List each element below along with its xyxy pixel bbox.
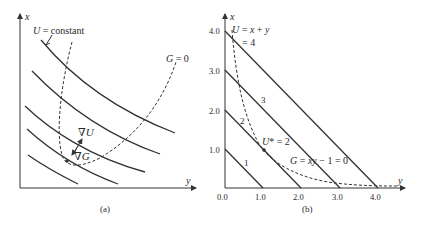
optimum-label: U* = 2	[262, 136, 290, 147]
u-level-curves	[25, 40, 175, 184]
u-line-1	[225, 149, 263, 188]
grad-u-label: ∇U	[78, 126, 95, 138]
axis-y-label-a: y	[185, 175, 191, 186]
g-equation-label: G = xy − 1 = 0	[290, 155, 348, 166]
u-equation-value: = 4	[242, 37, 255, 48]
axis-x-label-a: x	[24, 11, 30, 22]
level-label-3: 3	[261, 95, 266, 105]
u-constant-label: U = constant	[33, 25, 84, 36]
caption-b: (b)	[302, 204, 313, 214]
panel-a: x y U = constant G = 0 ∇U ∇G (a)	[20, 11, 196, 214]
x-tick-4: 4.0	[370, 192, 381, 202]
u-curve-2	[32, 71, 160, 154]
x-tick-0: 0.0	[217, 192, 228, 202]
g-zero-label: G = 0	[166, 53, 189, 64]
y-tick-3: 3.0	[209, 66, 220, 76]
y-tick-4: 4.0	[209, 26, 220, 36]
y-tick-1: 1.0	[209, 145, 220, 155]
level-label-1: 1	[244, 158, 249, 168]
u-curve-4	[27, 129, 118, 184]
figure: x y U = constant G = 0 ∇U ∇G (a) x y	[0, 0, 421, 227]
grad-g-label: ∇G	[74, 150, 90, 162]
caption-a: (a)	[100, 204, 110, 214]
tangent-point	[65, 159, 69, 163]
level-label-2: 2	[240, 116, 245, 126]
axis-y-label-b: y	[397, 175, 403, 186]
u-curve-1	[41, 40, 175, 133]
y-tick-2: 2.0	[209, 106, 220, 116]
g-constraint-curve	[59, 42, 176, 165]
x-tick-3: 3.0	[332, 192, 343, 202]
u-curve-5	[28, 155, 78, 184]
panel-b: x y 0.0 1.0 2.0 3.0 4.0 1.0 2.0 3.0 4.0 …	[209, 11, 405, 214]
axis-x-label-b: x	[229, 11, 235, 22]
x-tick-1: 1.0	[255, 192, 266, 202]
u-equation-label: U = x + y	[232, 24, 270, 35]
optimum-point	[262, 148, 266, 152]
u-line-3	[225, 70, 340, 188]
x-tick-2: 2.0	[293, 192, 304, 202]
